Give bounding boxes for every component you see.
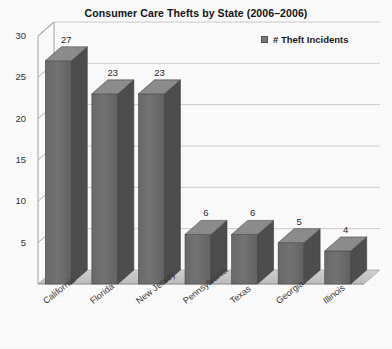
- bar: [278, 229, 320, 284]
- bar-value-label: 6: [250, 207, 255, 218]
- bar-value-label: 5: [296, 216, 301, 227]
- bar-value-label: 27: [61, 34, 72, 45]
- bar-value-label: 23: [108, 67, 119, 78]
- bar-chart-3d: Consumer Care Thefts by State (2006–2006…: [0, 0, 392, 349]
- bar: [45, 47, 87, 284]
- bar-value-label: 4: [343, 224, 348, 235]
- bar-value-label: 6: [203, 207, 208, 218]
- bar: [138, 80, 180, 284]
- bar-value-label: 23: [154, 67, 165, 78]
- bar: [232, 220, 274, 284]
- bar: [92, 80, 134, 284]
